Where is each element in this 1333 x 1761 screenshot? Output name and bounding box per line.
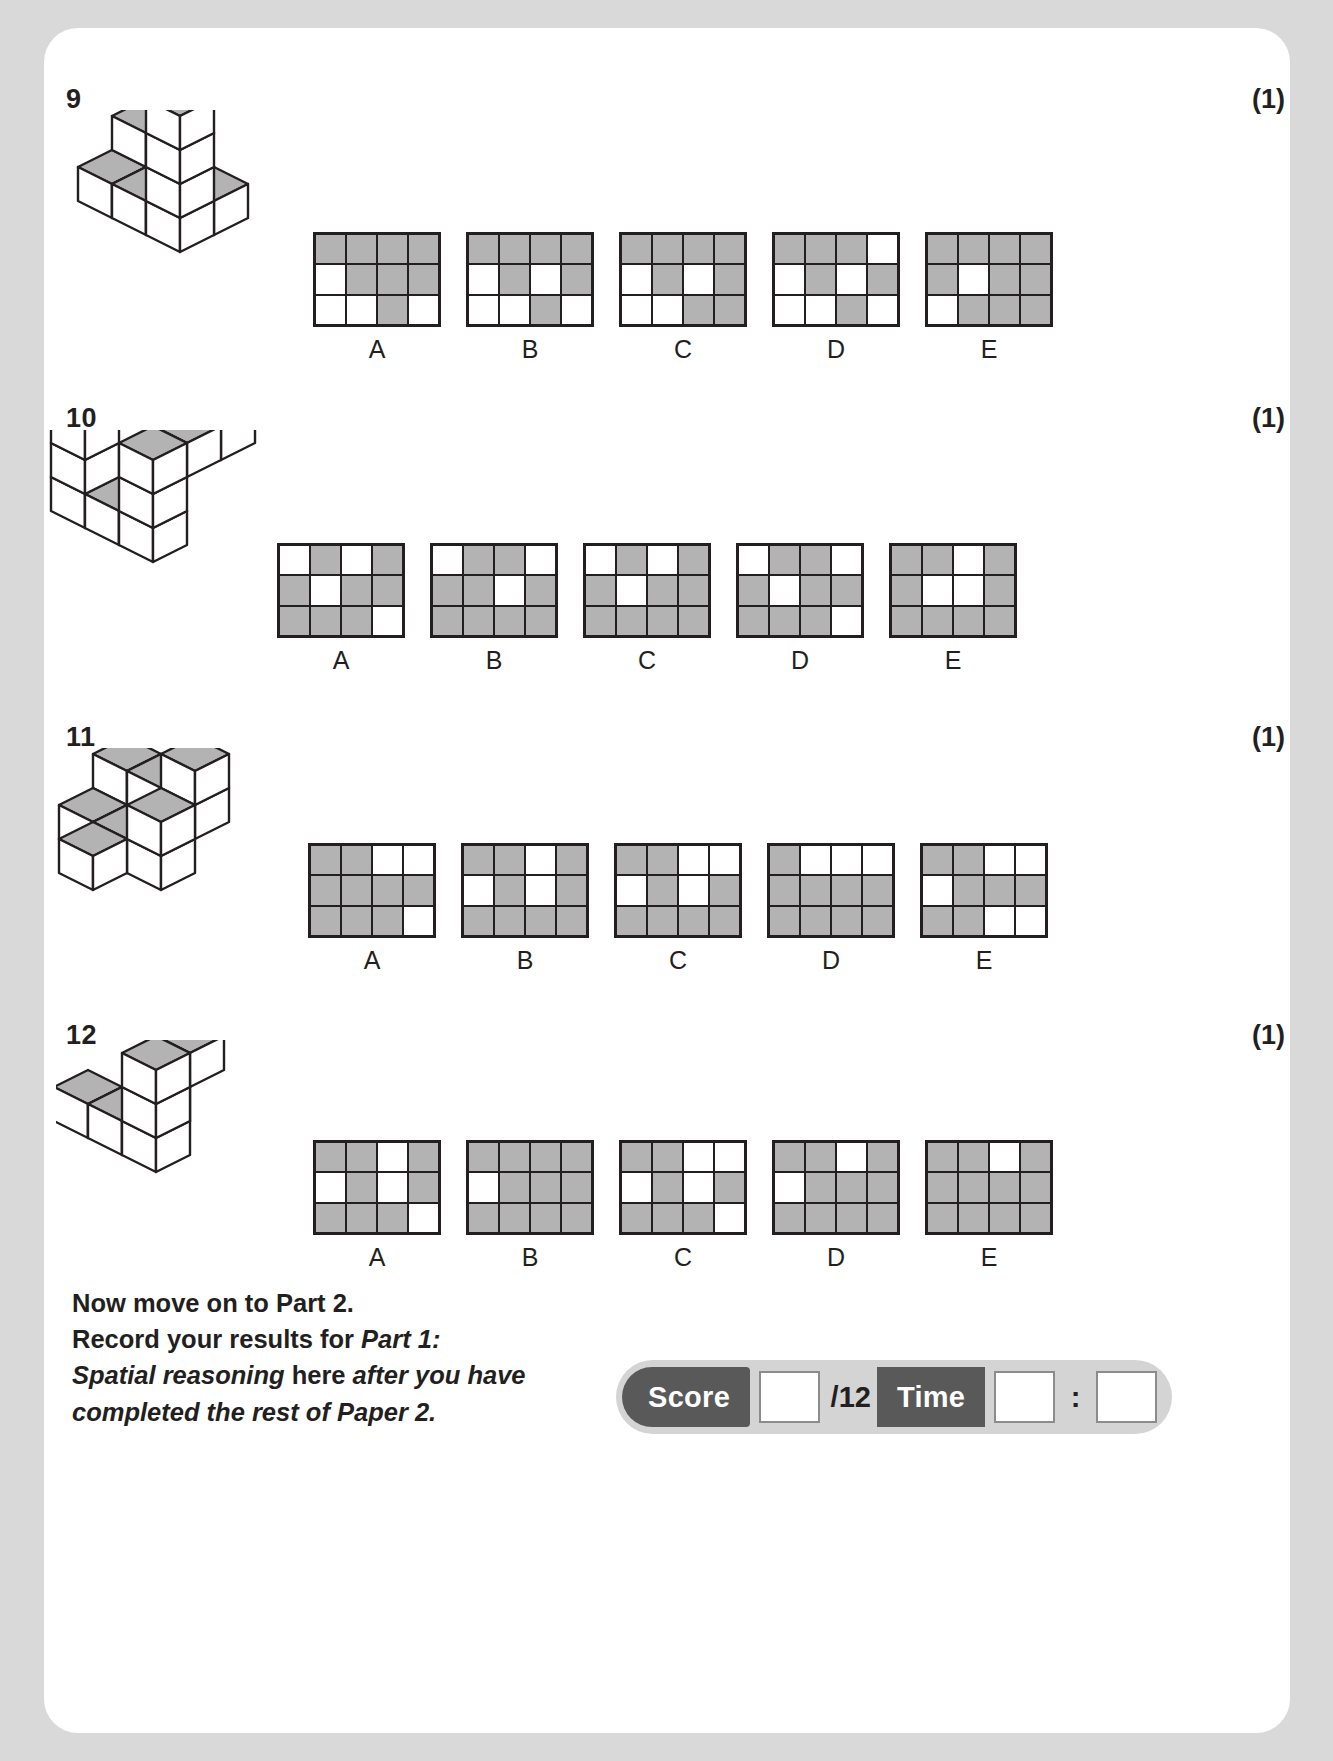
grid-cell-filled <box>464 546 493 574</box>
grid-cell-filled <box>562 235 591 263</box>
grid-cell-filled <box>409 235 438 263</box>
grid-cell-empty <box>832 846 861 874</box>
grid-cell-filled <box>342 907 371 935</box>
grid-cell-filled <box>928 235 957 263</box>
grid-cell-filled <box>832 576 861 604</box>
grid-cell-filled <box>347 1143 376 1171</box>
answer-option-10-E[interactable]: E <box>889 543 1017 638</box>
answer-option-11-C[interactable]: C <box>614 843 742 938</box>
grid-cell-empty <box>526 876 555 904</box>
score-label: Score <box>622 1367 750 1427</box>
grid-cell-filled <box>653 265 682 293</box>
option-label-B: B <box>461 946 589 975</box>
grid-cell-empty <box>373 607 402 635</box>
cube-structure-q9 <box>60 110 310 360</box>
time-minutes-input[interactable] <box>994 1371 1055 1423</box>
grid-cell-empty <box>495 576 524 604</box>
answer-option-10-C[interactable]: C <box>583 543 711 638</box>
grid-cell-filled <box>342 876 371 904</box>
question-mark-10: (1) <box>1252 403 1285 434</box>
grid-cell-empty <box>409 1204 438 1232</box>
grid-cell-filled <box>1021 296 1050 324</box>
grid-cell-empty <box>684 1143 713 1171</box>
grid-cell-empty <box>526 846 555 874</box>
answer-option-9-E[interactable]: E <box>925 232 1053 327</box>
grid-cell-filled <box>347 265 376 293</box>
time-seconds-input[interactable] <box>1096 1371 1157 1423</box>
grid-cell-empty <box>311 576 340 604</box>
grid-cell-empty <box>868 235 897 263</box>
option-label-B: B <box>430 646 558 675</box>
answer-grid <box>619 1140 747 1235</box>
grid-cell-empty <box>832 607 861 635</box>
question-mark-12: (1) <box>1252 1020 1285 1051</box>
grid-cell-filled <box>495 846 524 874</box>
grid-cell-filled <box>495 876 524 904</box>
grid-cell-filled <box>985 546 1014 574</box>
grid-cell-empty <box>617 576 646 604</box>
grid-cell-filled <box>990 1173 1019 1201</box>
grid-cell-empty <box>923 576 952 604</box>
grid-cell-empty <box>500 296 529 324</box>
grid-cell-empty <box>710 846 739 874</box>
grid-cell-filled <box>806 1143 835 1171</box>
answer-option-12-E[interactable]: E <box>925 1140 1053 1235</box>
answer-option-9-C[interactable]: C <box>619 232 747 327</box>
footer-line-4: completed the rest of Paper 2. <box>72 1394 632 1430</box>
answer-option-9-D[interactable]: D <box>772 232 900 327</box>
grid-cell-filled <box>806 1204 835 1232</box>
grid-cell-filled <box>715 1173 744 1201</box>
grid-cell-empty <box>469 265 498 293</box>
answer-option-12-A[interactable]: A <box>313 1140 441 1235</box>
option-label-E: E <box>925 335 1053 364</box>
grid-cell-filled <box>464 907 493 935</box>
answer-option-9-B[interactable]: B <box>466 232 594 327</box>
grid-cell-filled <box>409 1143 438 1171</box>
grid-cell-filled <box>373 907 402 935</box>
grid-cell-filled <box>373 876 402 904</box>
grid-cell-filled <box>342 607 371 635</box>
grid-cell-filled <box>500 1143 529 1171</box>
grid-cell-filled <box>347 1173 376 1201</box>
grid-cell-filled <box>923 846 952 874</box>
answer-option-11-A[interactable]: A <box>308 843 436 938</box>
answer-option-9-A[interactable]: A <box>313 232 441 327</box>
grid-cell-filled <box>347 235 376 263</box>
grid-cell-filled <box>378 265 407 293</box>
grid-cell-empty <box>954 546 983 574</box>
grid-cell-filled <box>990 235 1019 263</box>
grid-cell-filled <box>775 1143 804 1171</box>
grid-cell-filled <box>378 235 407 263</box>
answer-option-12-B[interactable]: B <box>466 1140 594 1235</box>
grid-cell-empty <box>378 1143 407 1171</box>
grid-cell-filled <box>1016 876 1045 904</box>
grid-cell-filled <box>648 907 677 935</box>
grid-cell-empty <box>648 546 677 574</box>
grid-cell-empty <box>770 576 799 604</box>
answer-option-11-E[interactable]: E <box>920 843 1048 938</box>
cube-structure-q11 <box>56 748 316 978</box>
answer-option-10-B[interactable]: B <box>430 543 558 638</box>
grid-cell-filled <box>801 576 830 604</box>
grid-cell-empty <box>679 846 708 874</box>
grid-cell-filled <box>715 265 744 293</box>
grid-cell-empty <box>409 296 438 324</box>
grid-cell-filled <box>739 576 768 604</box>
answer-option-10-D[interactable]: D <box>736 543 864 638</box>
score-input[interactable] <box>759 1371 820 1423</box>
answer-option-12-D[interactable]: D <box>772 1140 900 1235</box>
grid-cell-empty <box>373 846 402 874</box>
answer-option-12-C[interactable]: C <box>619 1140 747 1235</box>
grid-cell-filled <box>954 876 983 904</box>
answer-option-11-B[interactable]: B <box>461 843 589 938</box>
grid-cell-filled <box>837 1173 866 1201</box>
option-label-D: D <box>736 646 864 675</box>
grid-cell-filled <box>801 907 830 935</box>
grid-cell-empty <box>404 846 433 874</box>
grid-cell-empty <box>990 1143 1019 1171</box>
answer-option-11-D[interactable]: D <box>767 843 895 938</box>
grid-cell-filled <box>557 907 586 935</box>
grid-cell-empty <box>837 265 866 293</box>
grid-cell-empty <box>562 296 591 324</box>
grid-cell-filled <box>316 235 345 263</box>
